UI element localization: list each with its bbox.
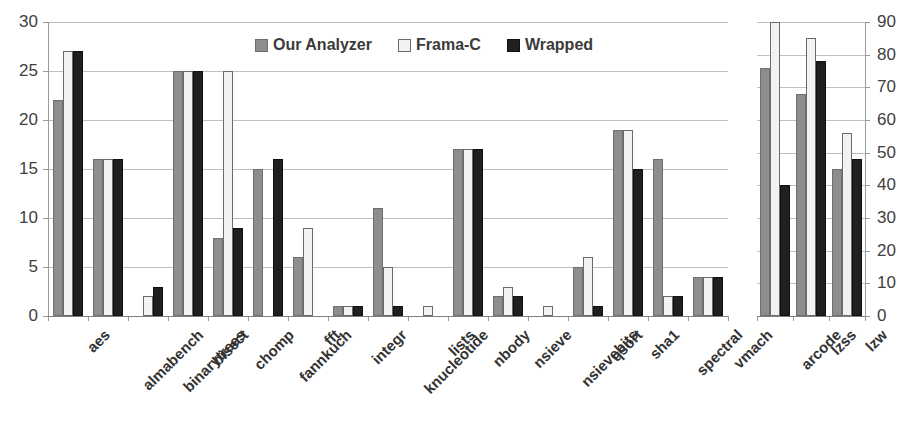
x-axis-line (48, 316, 728, 317)
bar (113, 159, 123, 316)
y-axis-line (865, 22, 866, 316)
legend-label-our-analyzer: Our Analyzer (273, 36, 372, 54)
legend-swatch-frama-c-icon (398, 39, 411, 52)
y-axis-tick-label: 10 (0, 208, 38, 228)
bar (693, 277, 703, 316)
bar (383, 267, 393, 316)
chart-legend: Our Analyzer Frama-C Wrapped (255, 36, 593, 54)
x-axis-tick (728, 316, 729, 321)
legend-item-our-analyzer: Our Analyzer (255, 36, 372, 54)
y-axis-tick-label: 20 (0, 110, 38, 130)
bar (663, 296, 673, 316)
bar (333, 306, 343, 316)
bar (503, 287, 513, 316)
legend-item-frama-c: Frama-C (398, 36, 481, 54)
bar (293, 257, 303, 316)
y-axis-tick-label: 40 (877, 175, 896, 195)
y-axis-tick-label: 30 (877, 208, 896, 228)
bar (353, 306, 363, 316)
y-axis-tick-label: 25 (0, 61, 38, 81)
legend-swatch-wrapped-icon (507, 39, 520, 52)
x-axis-label: integr (368, 326, 409, 367)
bar (780, 185, 790, 316)
bar (273, 159, 283, 316)
bar (673, 296, 683, 316)
gridline (48, 22, 728, 23)
bar (93, 159, 103, 316)
bar (423, 306, 433, 316)
x-axis-tick (865, 316, 866, 321)
bar (852, 159, 862, 316)
bar (653, 159, 663, 316)
y-axis-tick-label: 5 (0, 257, 38, 277)
x-axis-label: qsort (607, 326, 646, 365)
x-axis-label: chomp (250, 326, 297, 373)
y-axis-tick-label: 0 (0, 306, 38, 326)
legend-item-wrapped: Wrapped (507, 36, 593, 54)
legend-label-wrapped: Wrapped (525, 36, 593, 54)
bar (832, 169, 842, 316)
bar (796, 94, 806, 316)
bar (193, 71, 203, 316)
bar (816, 61, 826, 316)
bar (593, 306, 603, 316)
bar (183, 71, 193, 316)
bar (623, 130, 633, 316)
bar (842, 133, 852, 316)
bar (53, 100, 63, 316)
bar (73, 51, 83, 316)
bar (713, 277, 723, 316)
bar (806, 38, 816, 316)
y-axis-tick-label: 30 (0, 12, 38, 32)
y-axis-tick-label: 0 (877, 306, 886, 326)
y-axis-line (48, 22, 49, 316)
bar (373, 208, 383, 316)
y-axis-tick-label: 15 (0, 159, 38, 179)
bar (613, 130, 623, 316)
bar (473, 149, 483, 316)
bar (493, 296, 503, 316)
y-axis-tick-label: 20 (877, 241, 896, 261)
gridline (48, 120, 728, 121)
bar (633, 169, 643, 316)
benchmark-bar-chart-figure: 051015202530 aesalmabenchbinarytreesbise… (0, 0, 915, 424)
y-axis-tick-label: 80 (877, 45, 896, 65)
bar (463, 149, 473, 316)
x-axis-label: nsieve (530, 326, 575, 371)
y-axis-tick-label: 70 (877, 77, 896, 97)
legend-label-frama-c: Frama-C (416, 36, 481, 54)
bar (583, 257, 593, 316)
bar (233, 228, 243, 316)
bar (453, 149, 463, 316)
x-axis-label: aes (83, 326, 113, 356)
bar (213, 238, 223, 316)
bar (143, 296, 153, 316)
bar (153, 287, 163, 316)
legend-swatch-our-analyzer-icon (255, 39, 268, 52)
x-axis-label: sha1 (646, 326, 682, 362)
bar (760, 68, 770, 316)
bar (253, 169, 263, 316)
bar (303, 228, 313, 316)
bar (543, 306, 553, 316)
bar (770, 22, 780, 316)
bar (173, 71, 183, 316)
y-axis-tick-label: 50 (877, 143, 896, 163)
y-axis-tick-label: 10 (877, 273, 896, 293)
bar (103, 159, 113, 316)
bar (513, 296, 523, 316)
bar (223, 71, 233, 316)
x-axis-label: nbody (489, 326, 533, 370)
bar (393, 306, 403, 316)
y-axis-tick-label: 60 (877, 110, 896, 130)
x-axis-line (757, 316, 865, 317)
gridline (48, 71, 728, 72)
x-axis-label: lzw (862, 326, 891, 355)
bar (63, 51, 73, 316)
y-axis-tick-label: 90 (877, 12, 896, 32)
left-chart-panel: 051015202530 aesalmabenchbinarytreesbise… (0, 0, 730, 424)
right-chart-panel: 0102030405060708090 arcodelzsslzw (745, 0, 915, 424)
bar (343, 306, 353, 316)
bar (703, 277, 713, 316)
bar (573, 267, 583, 316)
